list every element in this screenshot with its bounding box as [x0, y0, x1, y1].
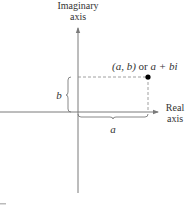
point-label-ordered-pair: (a, b) — [112, 60, 136, 73]
real-axis-label-line1: Real — [166, 102, 185, 113]
complex-point — [145, 74, 150, 79]
horizontal-brace-label: a — [110, 123, 116, 135]
imaginary-axis-label-line2: axis — [70, 11, 86, 22]
complex-plane-diagram: Imaginary axis Real axis (a, b) or a + b… — [0, 0, 187, 206]
real-axis-label-line2: axis — [167, 113, 183, 124]
horizontal-brace — [78, 114, 148, 119]
point-label-complex-form: a + bi — [151, 60, 178, 72]
point-label: (a, b) or a + bi — [112, 60, 177, 73]
vertical-brace-label: b — [56, 89, 62, 101]
imaginary-axis-label-line1: Imaginary — [57, 0, 98, 11]
vertical-brace — [66, 77, 71, 112]
point-label-connector: or — [139, 60, 149, 72]
caption-fragment — [0, 203, 6, 205]
